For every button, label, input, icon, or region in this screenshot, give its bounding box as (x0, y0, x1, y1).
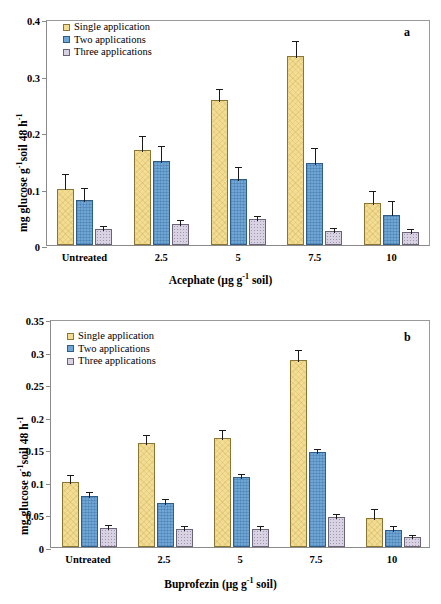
panel-b-label: b (404, 330, 411, 345)
error-bar-a-2-0 (219, 89, 220, 102)
y-tick-b-0 (46, 549, 51, 550)
x-tick-label-a-3: 7.5 (308, 252, 321, 263)
y-tick-b-5 (46, 386, 51, 387)
y-tick-label-a-0: 0 (35, 242, 40, 253)
error-bar-b-2-0 (222, 430, 223, 440)
x-tick-label-b-3: 7.5 (309, 554, 322, 565)
bar-a-1-2 (172, 224, 189, 245)
error-cap-a-3-2 (330, 228, 337, 229)
error-cap-b-0-2 (105, 525, 112, 526)
error-cap-b-4-2 (409, 535, 416, 536)
bar-b-3-0 (290, 360, 307, 547)
panel-b-x-axis-title: Buprofezin (µg g-1 soil) (0, 576, 441, 590)
error-cap-a-1-2 (177, 220, 184, 221)
legend-item-b-2: Three applications (67, 355, 156, 368)
error-bar-a-3-0 (296, 41, 297, 57)
error-cap-a-2-0 (216, 89, 223, 90)
x-tick-label-b-4: 10 (387, 554, 398, 565)
legend-label-a-2: Three applications (74, 46, 152, 59)
legend-swatch-icon-b-0 (67, 333, 74, 340)
bar-b-0-0 (62, 482, 79, 547)
error-bar-a-1-0 (142, 136, 143, 152)
legend-label-b-0: Single application (78, 330, 154, 343)
y-tick-label-a-4: 0.4 (27, 16, 40, 27)
error-cap-a-4-0 (369, 191, 376, 192)
error-cap-b-0-0 (67, 475, 74, 476)
legend-label-a-0: Single application (74, 21, 150, 34)
bar-a-0-2 (95, 229, 112, 245)
y-tick-b-6 (46, 354, 51, 355)
bar-a-2-0 (211, 100, 228, 245)
error-cap-b-4-0 (371, 509, 378, 510)
y-tick-label-a-2: 0.2 (27, 129, 40, 140)
x-tick-label-b-2: 5 (237, 554, 242, 565)
x-tick-label-a-4: 10 (386, 252, 397, 263)
x-tick-label-a-0: Untreated (62, 252, 107, 263)
legend-swatch-icon-a-1 (63, 36, 70, 43)
error-cap-b-4-1 (390, 526, 397, 527)
y-tick-label-b-1: 0.05 (26, 511, 44, 522)
legend-item-a-0: Single application (63, 21, 152, 34)
bar-b-1-0 (138, 443, 155, 547)
y-tick-b-7 (46, 321, 51, 322)
y-tick-label-b-5: 0.25 (26, 381, 44, 392)
error-cap-a-0-2 (100, 226, 107, 227)
y-tick-b-1 (46, 516, 51, 517)
bar-a-3-0 (287, 56, 304, 245)
error-cap-b-2-1 (238, 474, 245, 475)
error-bar-a-2-1 (238, 167, 239, 181)
error-cap-b-3-1 (314, 449, 321, 450)
error-cap-a-1-1 (158, 146, 165, 147)
error-cap-a-4-1 (388, 201, 395, 202)
x-tick-label-b-1: 2.5 (157, 554, 170, 565)
bar-b-2-0 (214, 438, 231, 547)
error-bar-b-3-0 (298, 350, 299, 362)
error-cap-a-2-2 (254, 216, 261, 217)
y-tick-label-b-4: 0.2 (31, 413, 44, 424)
error-bar-b-1-0 (146, 435, 147, 445)
error-bar-a-1-1 (161, 146, 162, 163)
panel-a-x-axis-title: Acephate (µg g-1 soil) (0, 272, 441, 286)
figure-container: mg glucose g-1soil 48 h-1 00.10.20.30.4 … (0, 0, 441, 604)
legend-item-a-1: Two applications (63, 34, 152, 47)
y-tick-b-4 (46, 419, 51, 420)
panel-b-legend: Single applicationTwo applicationsThree … (67, 330, 156, 368)
error-cap-a-3-0 (292, 41, 299, 42)
y-tick-label-b-3: 0.15 (26, 446, 44, 457)
error-cap-a-1-0 (139, 136, 146, 137)
bar-b-3-1 (309, 452, 326, 547)
error-bar-a-4-0 (373, 191, 374, 205)
legend-label-b-1: Two applications (78, 343, 150, 356)
error-bar-a-3-1 (315, 148, 316, 166)
bar-b-2-2 (252, 529, 269, 547)
x-tick-label-a-1: 2.5 (155, 252, 168, 263)
y-tick-label-b-2: 0.1 (31, 478, 44, 489)
error-cap-b-0-1 (86, 492, 93, 493)
legend-item-b-1: Two applications (67, 343, 156, 356)
error-cap-a-3-1 (311, 148, 318, 149)
panel-a-label: a (404, 25, 410, 40)
legend-label-a-1: Two applications (74, 34, 146, 47)
bar-b-4-0 (366, 518, 383, 547)
bar-a-3-1 (306, 163, 323, 245)
bar-a-1-0 (134, 150, 151, 245)
bar-b-1-1 (157, 503, 174, 547)
bar-a-0-1 (76, 200, 93, 245)
error-bar-a-0-1 (84, 188, 85, 203)
y-tick-label-b-0: 0 (39, 544, 44, 555)
legend-item-b-0: Single application (67, 330, 156, 343)
error-bar-b-4-0 (374, 509, 375, 520)
error-cap-b-1-1 (162, 499, 169, 500)
error-bar-a-4-1 (392, 201, 393, 216)
y-tick-a-4 (42, 21, 47, 22)
bar-b-3-2 (328, 517, 345, 547)
error-cap-b-3-2 (333, 514, 340, 515)
legend-swatch-icon-b-1 (67, 345, 74, 352)
error-cap-b-1-2 (181, 526, 188, 527)
bar-a-0-0 (57, 189, 74, 246)
error-bar-b-0-0 (70, 475, 71, 483)
y-tick-label-a-1: 0.1 (27, 185, 40, 196)
y-tick-a-2 (42, 134, 47, 135)
error-cap-b-3-0 (295, 350, 302, 351)
error-cap-a-0-0 (62, 174, 69, 175)
